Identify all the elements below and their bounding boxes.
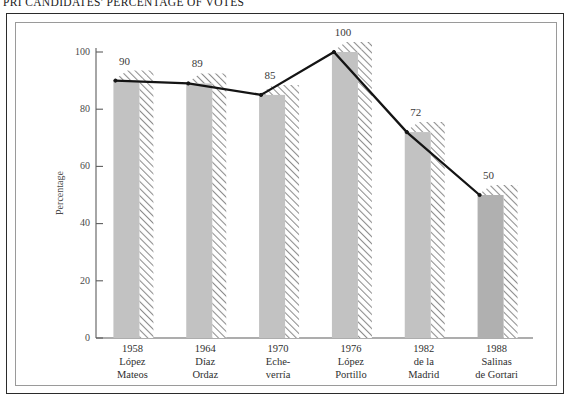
x-label-year: 1988: [486, 343, 507, 354]
trend-point-marker: [187, 82, 190, 85]
trend-point-marker: [332, 50, 335, 53]
bar-column[interactable]: [259, 85, 299, 338]
bar-value-label: 85: [265, 69, 277, 81]
x-label-year: 1964: [195, 343, 217, 354]
bar-value-label: 89: [192, 57, 204, 69]
x-label-name: Ordaz: [192, 369, 218, 380]
trend-point-marker: [405, 130, 408, 133]
x-label-name: Portillo: [335, 369, 367, 380]
chart-svg: 020406080100 Percentage 9089851007250 19…: [0, 0, 577, 416]
bar-side-face: [504, 185, 518, 338]
y-tick-label: 60: [80, 160, 90, 171]
trend-point-marker: [478, 193, 481, 196]
y-tick-label: 40: [80, 217, 90, 228]
x-label-name: verría: [266, 369, 291, 380]
x-label-name: de Gortari: [475, 369, 518, 380]
x-label-name: Madrid: [408, 369, 440, 380]
y-tick-label: 20: [80, 275, 90, 286]
x-label-year: 1982: [413, 343, 434, 354]
y-tick-label: 100: [75, 46, 90, 57]
bar-column[interactable]: [405, 122, 445, 338]
y-tick-label: 80: [80, 103, 90, 114]
x-label-name: Salinas: [481, 356, 511, 367]
bar-front-face: [332, 52, 358, 338]
x-label-name: Eche-: [266, 356, 291, 367]
bar-value-label: 100: [335, 26, 352, 38]
x-label-year: 1958: [122, 343, 143, 354]
bar-front-face: [259, 95, 285, 338]
bar-side-face: [285, 85, 299, 338]
bar-series: [113, 42, 517, 338]
bar-value-label: 50: [483, 169, 495, 181]
bar-front-face: [186, 83, 212, 338]
x-label-name: Mateos: [117, 369, 148, 380]
y-tick-label: 0: [85, 332, 90, 343]
bar-column[interactable]: [186, 73, 226, 338]
x-label-year: 1976: [340, 343, 361, 354]
x-label-name: Díaz: [195, 356, 215, 367]
chart-axes: [96, 48, 533, 338]
bar-value-label: 72: [410, 106, 421, 118]
x-label-name: de la: [414, 356, 434, 367]
x-label-name: López: [119, 356, 146, 367]
chart-plot-area: 020406080100 Percentage 9089851007250 19…: [0, 0, 577, 416]
bar-column[interactable]: [478, 185, 518, 338]
x-axis-category-labels: 1958LópezMateos1964DíazOrdaz1970Eche-ver…: [117, 343, 518, 380]
bar-front-face: [478, 195, 504, 338]
x-label-name: López: [338, 356, 365, 367]
x-label-year: 1970: [268, 343, 289, 354]
trend-point-marker: [114, 79, 117, 82]
y-axis-ticks: 020406080100: [75, 46, 103, 343]
y-axis-title: Percentage: [54, 171, 65, 215]
bar-column[interactable]: [113, 71, 153, 338]
bar-side-face: [139, 71, 153, 338]
trend-point-marker: [259, 93, 262, 96]
bar-side-face: [212, 73, 226, 338]
bar-front-face: [113, 81, 139, 338]
bar-front-face: [405, 132, 431, 338]
bar-value-label: 90: [119, 55, 131, 67]
